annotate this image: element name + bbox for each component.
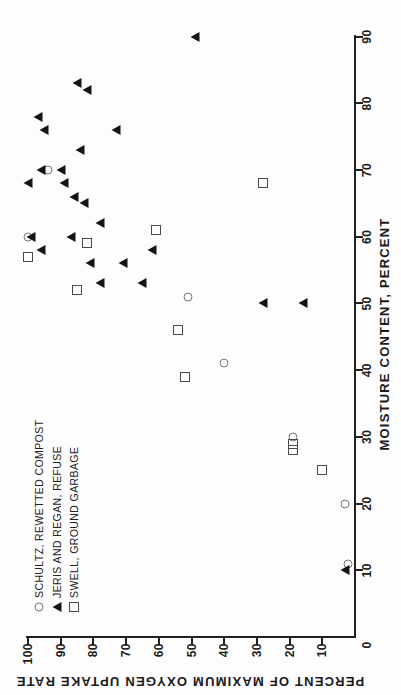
data-point-filled-triangle (118, 258, 127, 268)
legend-label: SCHULTZ, REWETTED COMPOST (32, 420, 46, 598)
moisture-axis-line (354, 35, 356, 638)
data-point-filled-triangle (82, 85, 91, 95)
data-point-filled-triangle (190, 32, 199, 42)
x-tick-label: 90 (360, 22, 374, 52)
x-tick-label: 30 (360, 422, 374, 452)
data-point-filled-triangle (148, 245, 157, 255)
x-tick-label: 70 (360, 155, 374, 185)
data-point-filled-triangle (76, 145, 85, 155)
data-point-filled-triangle (95, 218, 104, 228)
data-point-filled-triangle (59, 178, 68, 188)
data-point-open-square (288, 445, 298, 455)
data-point-filled-triangle (27, 232, 36, 242)
data-point-open-square (23, 252, 33, 262)
y-tick-label: 10 (314, 643, 330, 677)
y-tick-label: 60 (151, 643, 167, 677)
data-point-filled-triangle (112, 125, 121, 135)
data-point-filled-triangle (259, 298, 268, 308)
x-tick-label: 20 (360, 489, 374, 519)
data-point-open-square (173, 325, 183, 335)
legend-label: JERIS AND REGAN, REFUSE (50, 446, 64, 598)
data-point-filled-triangle (56, 165, 65, 175)
y-tick-label: 90 (53, 643, 69, 677)
y-tick-label: 70 (118, 643, 134, 677)
data-point-filled-triangle (95, 278, 104, 288)
data-point-filled-triangle (69, 192, 78, 202)
data-point-filled-triangle (40, 125, 49, 135)
legend-marker-open-circle (35, 603, 44, 612)
legend-label: SWELL, GROUND GARBAGE (67, 447, 81, 598)
data-point-open-square (72, 285, 82, 295)
data-point-open-circle (184, 292, 193, 301)
legend-marker-filled-triangle (53, 602, 62, 612)
y-tick-label: 50 (184, 643, 200, 677)
data-point-open-square (82, 238, 92, 248)
data-point-open-square (180, 372, 190, 382)
legend-marker-open-square (69, 602, 79, 612)
data-point-open-circle (220, 359, 229, 368)
data-point-filled-triangle (86, 258, 95, 268)
data-point-filled-triangle (73, 78, 82, 88)
data-point-open-square (317, 465, 327, 475)
y-tick-label: 100 (20, 643, 36, 677)
x-tick-label: 0 (360, 630, 374, 660)
x-tick-label: 40 (360, 355, 374, 385)
x-tick-label: 60 (360, 222, 374, 252)
data-point-filled-triangle (37, 245, 46, 255)
data-point-filled-triangle (298, 298, 307, 308)
data-point-filled-triangle (341, 565, 350, 575)
data-point-open-square (151, 225, 161, 235)
x-tick-label: 10 (360, 555, 374, 585)
x-axis-title: MOISTURE CONTENT, PERCENT (377, 218, 392, 451)
data-point-filled-triangle (66, 232, 75, 242)
data-point-filled-triangle (33, 112, 42, 122)
data-point-filled-triangle (24, 178, 33, 188)
y-tick-label: 30 (249, 643, 265, 677)
y-tick-label: 20 (282, 643, 298, 677)
data-point-filled-triangle (37, 165, 46, 175)
data-point-filled-triangle (138, 278, 147, 288)
data-point-filled-triangle (79, 198, 88, 208)
data-point-open-square (258, 178, 268, 188)
y-tick-label: 80 (85, 643, 101, 677)
x-tick-label: 50 (360, 288, 374, 318)
scanned-scatter-figure: MOISTURE CONTENT, PERCENT PERCENT OF MAX… (0, 0, 401, 695)
data-point-open-circle (341, 499, 350, 508)
rotated-chart: MOISTURE CONTENT, PERCENT PERCENT OF MAX… (0, 0, 401, 695)
x-tick-label: 80 (360, 88, 374, 118)
y-tick-label: 40 (216, 643, 232, 677)
